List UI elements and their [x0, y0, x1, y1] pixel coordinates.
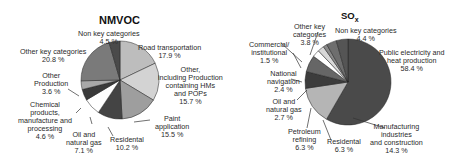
- label-residental: Residental6.3 %: [327, 138, 361, 154]
- leader-line: [90, 117, 92, 124]
- label-non-key: Non key categories4.5 %: [78, 30, 140, 46]
- label-oil: Oil andnatural gas2.7 %: [266, 98, 302, 122]
- label-residental: Residental10.2 %: [110, 136, 144, 152]
- leader-line: [68, 89, 79, 96]
- label-non-key: Non key categories4.4 %: [335, 27, 397, 43]
- leader-line: [293, 53, 301, 68]
- label-road: Road transportation17.9 %: [138, 44, 201, 60]
- label-other-including: Other,including Productioncontaining HMs…: [158, 66, 223, 106]
- label-chemical: Chemicalproducts,manufacture andprocessi…: [18, 101, 72, 141]
- label-commercial: Commercial/institutional1.5 %: [249, 41, 289, 65]
- leader-line: [134, 120, 150, 122]
- label-national: Nationalnavigation2.4 %: [267, 70, 300, 94]
- label-manufacturing: Manufacturingindustriesand construction1…: [370, 123, 423, 155]
- sox-chart-panel: SOx Other keycategories3.8 % Non key cat…: [235, 0, 467, 163]
- leader-line: [307, 108, 311, 128]
- label-other-key: Other key categories20.8 %: [20, 48, 86, 64]
- leader-line: [76, 108, 81, 113]
- nmvoc-chart-panel: NMVOC Non key categories4.5 % Road trans…: [0, 0, 235, 163]
- label-paint: Paintapplication15.5 %: [155, 115, 189, 139]
- label-public: Public electricity andheat production58.…: [379, 49, 445, 73]
- label-other-key: Other keycategories3.8 %: [293, 23, 326, 47]
- label-other-production: OtherProduction3.6 %: [34, 72, 68, 96]
- label-petroleum: Petroleumrefining6.3 %: [288, 128, 321, 152]
